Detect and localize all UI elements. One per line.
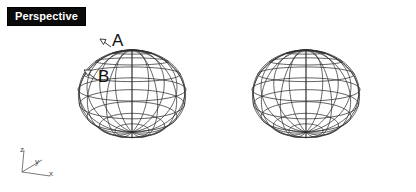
axis-label-z: z <box>20 146 24 154</box>
viewport-label[interactable]: Perspective <box>7 7 86 26</box>
axis-line-y <box>22 160 42 172</box>
callout-a-arrowhead <box>100 39 106 45</box>
axis-line-x <box>22 172 50 176</box>
axis-label-x: x <box>49 170 53 178</box>
left-sphere <box>78 50 186 138</box>
right-sphere <box>252 50 360 138</box>
axis-label-y: y <box>35 158 39 166</box>
wireframe-scene <box>0 0 416 192</box>
callout-label-a: A <box>112 32 123 49</box>
callout-label-b: B <box>98 68 109 85</box>
screenshot-canvas: Perspective A B z y x © 2014 Cengage Lea… <box>0 0 416 192</box>
